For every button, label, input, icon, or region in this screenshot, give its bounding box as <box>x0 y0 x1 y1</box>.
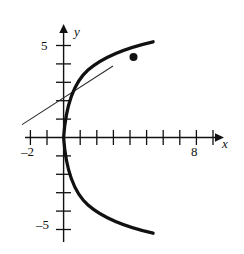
x-axis <box>25 130 224 145</box>
y-axis-arrowhead <box>59 24 68 33</box>
y-axis-label: y <box>74 24 80 40</box>
x-axis-label: x <box>222 136 228 152</box>
y-tick-label-minus5: –5 <box>36 217 49 233</box>
x-tick-label-8: 8 <box>191 144 198 160</box>
x-tick-label-minus2: –2 <box>21 144 34 160</box>
y-tick-label-5: 5 <box>41 38 48 54</box>
tangency-point-marker <box>130 53 138 61</box>
graph-figure: x y 5 –5 –2 8 <box>0 0 244 254</box>
parabola-tangent-plot <box>0 0 244 254</box>
